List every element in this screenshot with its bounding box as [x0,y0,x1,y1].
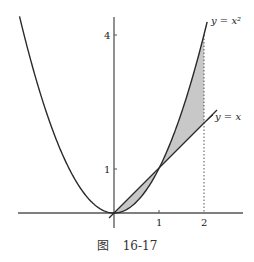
label-parabola: y = x² [210,15,241,26]
tick-label-y1: 1 [104,164,110,175]
plot-canvas: y = x² y = x 1 2 1 4 [0,0,254,262]
parabola-curve [20,16,208,213]
leader-line [205,115,213,122]
label-line: y = x [214,111,241,122]
tick-label-x1: 1 [156,217,162,228]
caption-figure-word: 图 [97,236,109,253]
line-y-equals-x [109,110,217,218]
shaded-region [114,35,204,213]
tick-label-y4: 4 [104,30,110,41]
caption-number: 16-17 [123,239,158,253]
figure-caption: 图16-17 [0,236,254,253]
tick-label-x2: 2 [201,217,207,228]
figure: y = x² y = x 1 2 1 4 图16-17 [0,0,254,262]
